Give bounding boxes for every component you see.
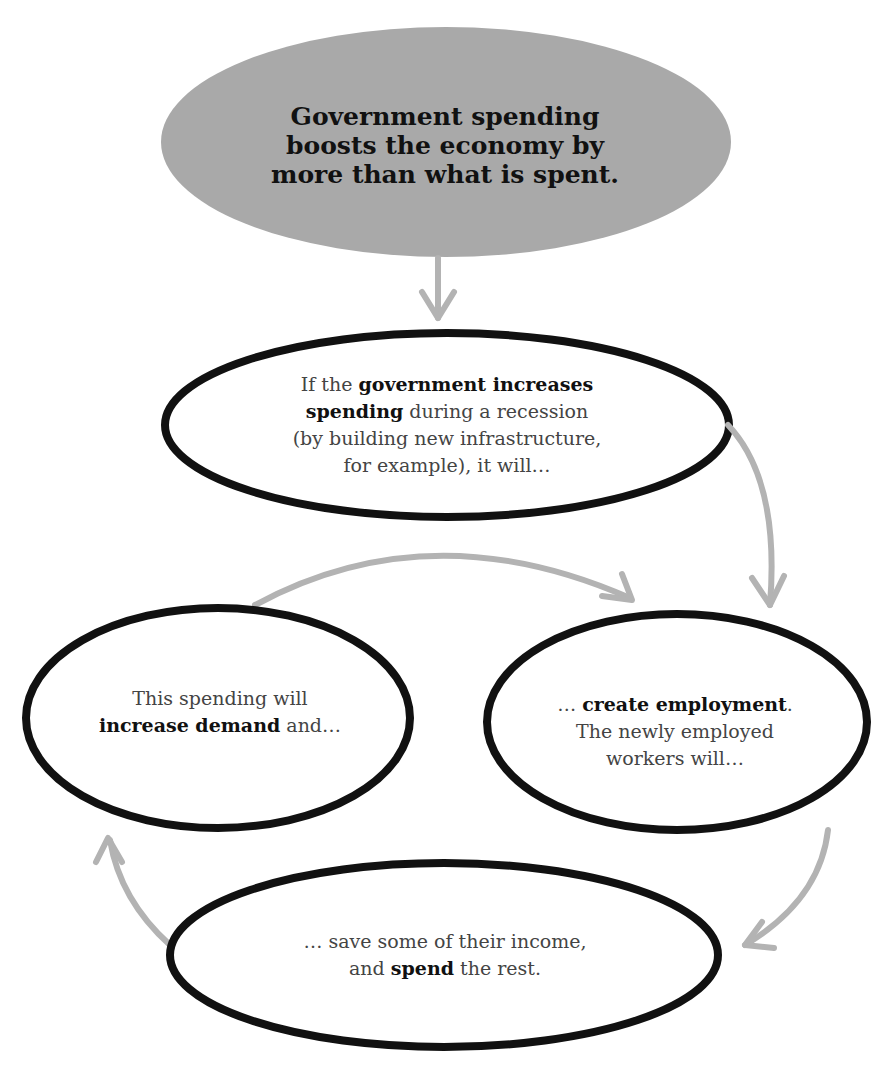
title-line-3: more than what is spent.: [271, 160, 619, 189]
demand-node: This spending will increase demand and…: [60, 680, 380, 744]
arrow-spend-to-demand: [96, 838, 170, 945]
arrow-demand-to-employment: [255, 556, 632, 605]
employment-line-3: workers will…: [606, 745, 744, 772]
title-line-1: Government spending: [291, 102, 600, 131]
demand-line-1: This spending will: [132, 685, 307, 712]
government-node: If the government increases spending dur…: [200, 365, 694, 485]
bold-fragment: spend: [391, 957, 454, 979]
spend-line-1: … save some of their income,: [303, 928, 586, 955]
demand-line-2: increase demand and…: [99, 712, 341, 739]
bold-fragment: increase demand: [99, 714, 280, 736]
government-line-2: spending during a recession: [306, 398, 588, 425]
title-node: Government spending boosts the economy b…: [200, 85, 690, 205]
government-line-1: If the government increases: [301, 371, 594, 398]
bold-fragment: create employment: [582, 693, 787, 715]
employment-node: … create employment. The newly employed …: [510, 686, 840, 776]
spend-line-2: and spend the rest.: [349, 955, 541, 982]
text-fragment: and: [349, 957, 391, 979]
government-line-4: for example), it will…: [343, 452, 550, 479]
text-fragment: during a recession: [403, 400, 588, 422]
employment-line-2: The newly employed: [576, 718, 774, 745]
text-fragment: the rest.: [454, 957, 541, 979]
text-fragment: .: [787, 693, 793, 715]
arrow-title-to-government: [422, 258, 454, 318]
government-line-3: (by building new infrastructure,: [293, 425, 602, 452]
bold-fragment: government increases: [358, 373, 593, 395]
title-line-2: boosts the economy by: [286, 131, 604, 160]
text-fragment: If the: [301, 373, 359, 395]
text-fragment: …: [557, 693, 582, 715]
text-fragment: and…: [280, 714, 341, 736]
employment-line-1: … create employment.: [557, 691, 793, 718]
spend-node: … save some of their income, and spend t…: [220, 925, 670, 985]
arrow-government-to-employment: [728, 425, 784, 605]
bold-fragment: spending: [306, 400, 404, 422]
arrow-employment-to-spend: [745, 830, 828, 948]
